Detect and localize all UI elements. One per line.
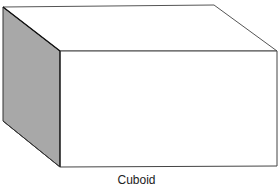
diagram-caption: Cuboid — [0, 173, 279, 187]
caption-text: Cuboid — [117, 173, 155, 187]
cuboid-diagram — [0, 0, 279, 188]
cuboid-front-face — [60, 51, 277, 167]
